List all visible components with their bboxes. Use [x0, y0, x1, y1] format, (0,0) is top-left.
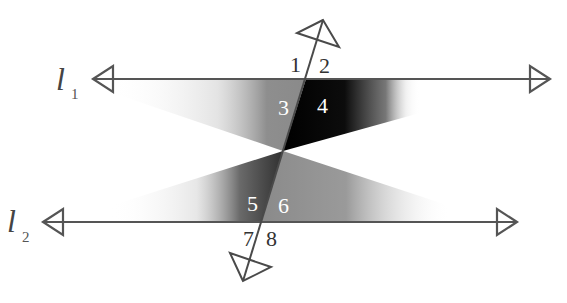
ell-2-subscript: 2: [22, 229, 30, 245]
angle-3-region: [110, 79, 306, 151]
angle-label-2: 2: [319, 53, 330, 78]
line-label-l1: l 1: [56, 61, 79, 102]
angle-label-5: 5: [247, 191, 258, 216]
transversal-diagram: l 1 l 2 1 2 3 4 5 6 7 8: [0, 0, 567, 303]
angle-label-4: 4: [317, 93, 328, 118]
ell-1-subscript: 1: [71, 86, 79, 102]
line-label-l2: l 2: [7, 203, 30, 245]
ell-1-symbol: l: [56, 61, 65, 97]
angle-label-6: 6: [278, 193, 289, 218]
angle-label-7: 7: [243, 226, 254, 251]
angle-6-region: [261, 151, 450, 222]
angle-label-8: 8: [266, 226, 277, 251]
angle-4-region: [283, 79, 420, 151]
angle-label-3: 3: [278, 95, 289, 120]
angle-label-1: 1: [290, 52, 301, 77]
ell-2-symbol: l: [7, 203, 16, 239]
